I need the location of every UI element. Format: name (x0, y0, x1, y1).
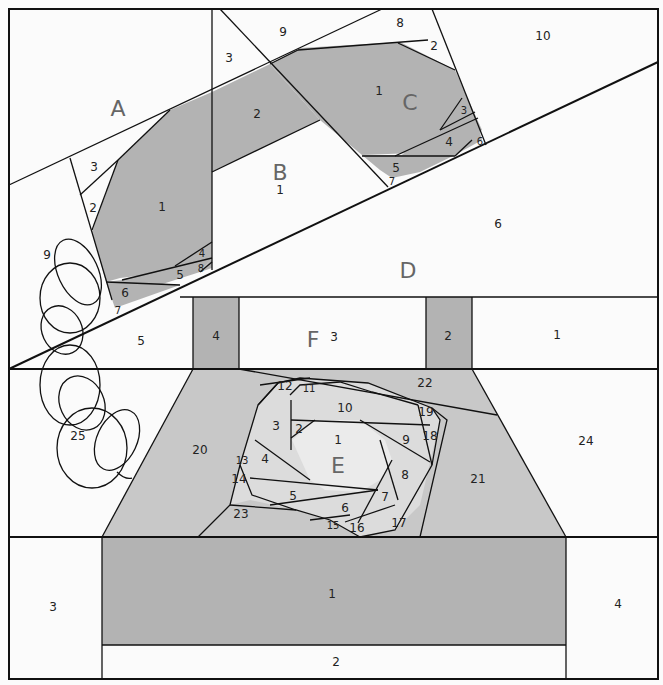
f-piece-2-label: 2 (444, 329, 452, 343)
e-piece-18-label: 18 (422, 429, 437, 443)
e-piece-14-label: 14 (231, 472, 246, 486)
d-piece-6-label: 6 (494, 217, 502, 231)
e-piece-6-label: 6 (341, 501, 349, 515)
c-piece-8-label: 8 (396, 16, 404, 30)
section-b-label: B (272, 160, 287, 185)
e-piece-24-label: 24 (578, 434, 593, 448)
d-piece-5-label: 5 (137, 334, 145, 348)
c-piece-4-label: 4 (445, 135, 453, 149)
section-f-label: F (307, 327, 320, 352)
c-piece-10-label: 10 (535, 29, 550, 43)
g-piece-2-label: 2 (332, 655, 340, 669)
c-piece-3-label: 3 (461, 105, 467, 116)
g-piece-1-label: 1 (328, 587, 336, 601)
e-piece-25-label: 25 (70, 429, 85, 443)
c-piece-7-label: 7 (389, 176, 395, 187)
b-piece-2-label: 2 (253, 107, 261, 121)
a-piece-4-label: 4 (199, 248, 205, 259)
e-piece-9-label: 9 (402, 433, 410, 447)
a-piece-2-label: 2 (89, 201, 97, 215)
f-piece-4-label: 4 (212, 329, 220, 343)
e-piece-4-label: 4 (261, 452, 269, 466)
section-c-label: C (402, 90, 417, 115)
e-piece-20-label: 20 (192, 443, 207, 457)
g-piece-4-label: 4 (614, 597, 622, 611)
a-piece-1-label: 1 (158, 200, 166, 214)
f-piece-1-label: 1 (553, 328, 561, 342)
e-piece-3-label: 3 (272, 419, 280, 433)
c-piece-1-label: 1 (375, 84, 383, 98)
c-piece-5-label: 5 (392, 161, 400, 175)
a-piece-3-label: 3 (90, 160, 98, 174)
b-piece-3-label: 3 (225, 51, 233, 65)
e-piece-15-label: 15 (327, 520, 340, 531)
e-piece-8-label: 8 (401, 468, 409, 482)
e-piece-13-label: 13 (236, 455, 249, 466)
a-piece-8-label: 8 (198, 263, 204, 274)
e-piece-17-label: 17 (391, 516, 406, 530)
e-piece-12-label: 12 (277, 379, 292, 393)
c-piece-2-label: 2 (430, 39, 438, 53)
paper-piecing-diagram: A B C D F E 1 2 3 4 5 6 7 8 9 1 2 3 9 1 … (0, 0, 663, 685)
e-piece-22-label: 22 (417, 376, 432, 390)
e-piece-1-label: 1 (334, 433, 342, 447)
g-piece-3-label: 3 (49, 600, 57, 614)
b-piece-1-label: 1 (276, 183, 284, 197)
section-d-label: D (400, 258, 417, 283)
section-e-label: E (331, 453, 345, 478)
e-piece-7-label: 7 (381, 490, 389, 504)
section-a-label: A (110, 96, 125, 121)
e-piece-16-label: 16 (349, 521, 364, 535)
f-piece-3-label: 3 (330, 330, 338, 344)
e-piece-5-label: 5 (289, 489, 297, 503)
a-piece-6-label: 6 (121, 286, 129, 300)
e-piece-19-label: 19 (418, 405, 433, 419)
e-piece-10-label: 10 (337, 401, 352, 415)
b-piece-9-label: 9 (279, 25, 287, 39)
a-piece-5-label: 5 (176, 268, 184, 282)
e-piece-2-label: 2 (295, 422, 303, 436)
a-piece-9-label: 9 (43, 248, 51, 262)
a-piece-7-label: 7 (115, 305, 121, 316)
e-piece-21-label: 21 (470, 472, 485, 486)
e-piece-23-label: 23 (233, 507, 248, 521)
c-piece-6-label: 6 (477, 136, 483, 147)
e-piece-11-label: 11 (303, 383, 316, 394)
